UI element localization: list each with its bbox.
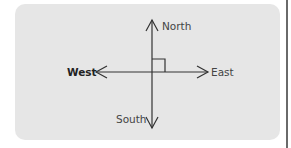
- south-label: South: [116, 114, 147, 125]
- right-angle-marker-icon: [152, 59, 165, 72]
- north-label: North: [162, 21, 191, 32]
- compass-diagram: [0, 0, 291, 148]
- east-label: East: [211, 67, 234, 78]
- west-label: West: [67, 67, 97, 78]
